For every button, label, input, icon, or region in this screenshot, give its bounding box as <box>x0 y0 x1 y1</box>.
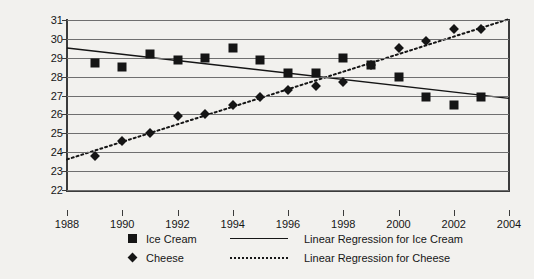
y-axis-tick-mark <box>62 39 67 40</box>
gridline <box>67 171 509 172</box>
x-axis-tick-mark <box>343 210 344 216</box>
y-axis-tick-mark <box>62 190 67 191</box>
plot-area: 2223242526272829303119881990199219941996… <box>67 20 509 190</box>
gridline <box>67 20 509 21</box>
square-marker-icon <box>128 234 146 243</box>
x-axis-tick-label: 1988 <box>55 218 79 230</box>
y-axis-tick-mark <box>62 152 67 153</box>
chart-container: Per Capita Consumption (pounds) 22232425… <box>0 0 534 279</box>
data-point-ice-cream <box>228 44 237 53</box>
chart-legend: Ice Cream Linear Regression for Ice Crea… <box>128 229 463 267</box>
y-axis-tick-mark <box>62 133 67 134</box>
x-axis-tick-mark <box>178 210 179 216</box>
gridline <box>67 152 509 153</box>
legend-item-cheese: Cheese Linear Regression for Cheese <box>128 248 463 267</box>
legend-label-ice-cream-regression: Linear Regression for Ice Cream <box>304 233 463 245</box>
data-point-ice-cream <box>201 53 210 62</box>
data-point-ice-cream <box>173 55 182 64</box>
data-point-ice-cream <box>339 53 348 62</box>
data-point-ice-cream <box>284 68 293 77</box>
data-point-ice-cream <box>394 72 403 81</box>
y-axis-tick-mark <box>62 58 67 59</box>
y-axis-tick-mark <box>62 171 67 172</box>
gridline <box>67 133 509 134</box>
diamond-marker-icon <box>128 254 146 261</box>
legend-label-cheese: Cheese <box>146 252 230 264</box>
x-axis-tick-mark <box>288 210 289 216</box>
data-point-ice-cream <box>256 55 265 64</box>
x-axis-tick-mark <box>454 210 455 216</box>
y-axis-tick-mark <box>62 114 67 115</box>
solid-line-icon <box>230 238 304 240</box>
legend-label-ice-cream: Ice Cream <box>146 233 230 245</box>
legend-label-cheese-regression: Linear Regression for Cheese <box>304 252 450 264</box>
dotted-line-icon <box>230 257 304 259</box>
x-axis-tick-label: 2004 <box>497 218 521 230</box>
x-axis-tick-mark <box>509 210 510 216</box>
x-axis-tick-mark <box>399 210 400 216</box>
data-point-ice-cream <box>118 63 127 72</box>
data-point-ice-cream <box>422 93 431 102</box>
x-axis-tick-mark <box>122 210 123 216</box>
data-point-ice-cream <box>449 101 458 110</box>
y-axis-tick-mark <box>62 96 67 97</box>
x-axis-tick-mark <box>67 210 68 216</box>
data-point-ice-cream <box>477 93 486 102</box>
trendlines-layer <box>67 20 509 190</box>
gridline <box>67 96 509 97</box>
legend-item-ice-cream: Ice Cream Linear Regression for Ice Crea… <box>128 229 463 248</box>
data-point-ice-cream <box>311 68 320 77</box>
y-axis-tick-mark <box>62 20 67 21</box>
data-point-ice-cream <box>145 50 154 59</box>
gridline <box>67 58 509 59</box>
gridline <box>67 190 509 191</box>
y-axis-tick-mark <box>62 77 67 78</box>
x-axis-tick-mark <box>233 210 234 216</box>
data-point-ice-cream <box>90 59 99 68</box>
gridline <box>67 114 509 115</box>
gridline <box>67 39 509 40</box>
